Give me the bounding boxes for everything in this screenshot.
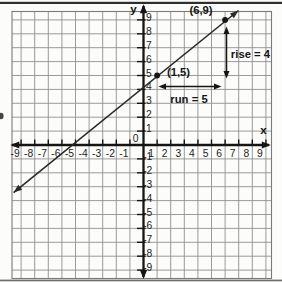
x-tick-label: 4 [189, 148, 195, 159]
x-tick-label: -1 [119, 148, 128, 159]
y-tick-label: -6 [143, 220, 152, 231]
x-tick-label: 3 [175, 148, 181, 159]
y-tick-label: 3 [146, 95, 152, 106]
x-axis-label: x [260, 123, 267, 136]
y-tick-label: 2 [146, 109, 152, 120]
x-tick-label: -4 [79, 148, 88, 159]
x-tick-label: -3 [92, 148, 101, 159]
y-tick-label: 7 [146, 40, 152, 51]
slope-graph: -9-8-7-6-5-4-3-2-1123456789987654321-1-2… [0, 0, 282, 282]
run-label: run = 5 [170, 93, 207, 105]
y-tick-label: -3 [143, 179, 152, 190]
page-background [0, 0, 282, 282]
y-axis-label: y [130, 2, 137, 15]
y-tick-label: 5 [146, 68, 152, 79]
x-tick-label: 8 [243, 148, 249, 159]
origin-label: 0 [133, 133, 139, 144]
x-tick-label: 7 [230, 148, 236, 159]
y-tick-label: -8 [143, 248, 152, 259]
bottom-border-line [0, 280, 282, 282]
y-tick-label: -2 [143, 165, 152, 176]
x-tick-label: 9 [257, 148, 263, 159]
x-tick-label: -9 [11, 148, 20, 159]
y-tick-label: -5 [143, 207, 152, 218]
x-tick-label: -7 [38, 148, 47, 159]
y-tick-label: -7 [143, 234, 152, 245]
rise-label: rise = 4 [231, 48, 271, 60]
point-dot-1-5 [154, 73, 160, 79]
x-tick-label: 5 [203, 148, 209, 159]
x-tick-label: -2 [106, 148, 115, 159]
x-tick-label: 6 [216, 148, 222, 159]
point-label-1-5: (1,5) [167, 66, 190, 78]
y-tick-label: -4 [143, 193, 152, 204]
coordinate-plane-panel: -9-8-7-6-5-4-3-2-1123456789987654321-1-2… [0, 0, 282, 282]
x-tick-label: -8 [24, 148, 33, 159]
y-tick-label: 9 [146, 12, 152, 23]
y-tick-label: -1 [143, 151, 152, 162]
point-label-6-9: (6,9) [189, 4, 212, 16]
y-tick-label: -9 [143, 262, 152, 273]
y-tick-label: 6 [146, 54, 152, 65]
y-tick-label: 1 [146, 123, 152, 134]
top-border-line [0, 2, 282, 4]
x-tick-label: 2 [162, 148, 168, 159]
y-tick-label: 8 [146, 26, 152, 37]
point-dot-6-9 [222, 17, 228, 23]
